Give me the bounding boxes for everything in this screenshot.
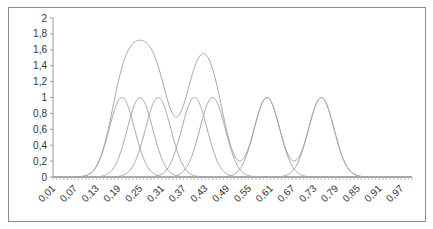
y-tick-label: 1,2: [33, 76, 47, 87]
x-tick-label: 0,73: [297, 182, 319, 204]
x-tick-label: 0,55: [232, 182, 254, 204]
x-tick-label: 0,97: [384, 182, 406, 204]
x-axis: 0,010,070,130,190,250,310,370,430,490,55…: [36, 177, 412, 204]
y-tick-label: 0,6: [33, 124, 47, 135]
y-tick-label: 1: [41, 92, 47, 103]
x-tick-label: 0,07: [58, 182, 80, 204]
y-tick-label: 0,2: [33, 156, 47, 167]
y-axis: 00,20,40,60,811,21,41,61,82: [33, 13, 53, 183]
plot-area: [53, 40, 412, 177]
x-tick-label: 0,13: [79, 182, 101, 204]
x-tick-label: 0,19: [101, 182, 123, 204]
x-tick-label: 0,49: [210, 182, 232, 204]
y-tick-label: 1,4: [33, 60, 47, 71]
y-tick-label: 2: [41, 13, 47, 24]
x-tick-label: 0,37: [166, 182, 188, 204]
x-tick-label: 0,79: [319, 182, 341, 204]
x-tick-label: 0,85: [340, 182, 362, 204]
x-tick-label: 0,43: [188, 182, 210, 204]
x-tick-label: 0,01: [36, 182, 58, 204]
gaussian-curve: [53, 98, 412, 178]
x-tick-label: 0,67: [275, 182, 297, 204]
y-tick-label: 0,8: [33, 108, 47, 119]
y-tick-label: 0: [41, 172, 47, 183]
sum-curve: [53, 40, 412, 177]
x-tick-label: 0,61: [253, 182, 275, 204]
y-tick-label: 1,8: [33, 28, 47, 39]
y-tick-label: 1,6: [33, 44, 47, 55]
x-tick-label: 0,91: [362, 182, 384, 204]
y-tick-label: 0,4: [33, 140, 47, 151]
line-chart: 00,20,40,60,811,21,41,61,82 0,010,070,13…: [0, 0, 433, 229]
x-tick-label: 0,31: [145, 182, 167, 204]
x-tick-label: 0,25: [123, 182, 145, 204]
